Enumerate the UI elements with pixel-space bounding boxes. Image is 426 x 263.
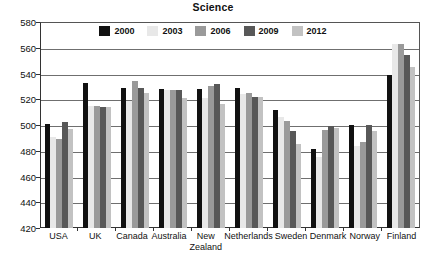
- gridline: [41, 203, 419, 204]
- legend-label: 2012: [307, 26, 327, 36]
- legend-swatch-icon: [195, 26, 206, 36]
- y-axis-tick-label: 520: [0, 94, 36, 105]
- legend-item[interactable]: 2006: [195, 26, 230, 36]
- y-axis-tick-mark: [36, 22, 40, 23]
- x-axis-label: Canada: [114, 231, 151, 252]
- y-axis-tick-label: 560: [0, 42, 36, 53]
- x-axis-label: Norway: [346, 231, 383, 252]
- gridline: [41, 152, 419, 153]
- x-axis-labels: USAUKCanadaAustraliaNewZealandNetherland…: [40, 231, 420, 252]
- x-axis-label-line: Zealand: [187, 242, 224, 253]
- x-axis-label-line: Sweden: [273, 231, 310, 242]
- x-axis-label-line: New: [187, 231, 224, 242]
- legend-label: 2000: [114, 26, 134, 36]
- x-axis-label: Denmark: [310, 231, 347, 252]
- legend-label: 2009: [259, 26, 279, 36]
- legend-swatch-icon: [292, 26, 303, 36]
- x-axis-label: Sweden: [273, 231, 310, 252]
- legend-item[interactable]: 2009: [244, 26, 279, 36]
- y-axis-tick-mark: [36, 99, 40, 100]
- x-axis-label: Netherlands: [224, 231, 273, 252]
- x-axis-label-line: Norway: [346, 231, 383, 242]
- gridline: [41, 126, 419, 127]
- legend-item[interactable]: 2012: [292, 26, 327, 36]
- y-axis-tick-label: 480: [0, 145, 36, 156]
- legend-swatch-icon: [99, 26, 110, 36]
- x-axis-label-line: Canada: [114, 231, 151, 242]
- gridline: [41, 75, 419, 76]
- y-axis-tick-label: 440: [0, 197, 36, 208]
- x-axis-label: NewZealand: [187, 231, 224, 252]
- y-axis-tick-mark: [36, 48, 40, 49]
- y-axis-tick-mark: [36, 202, 40, 203]
- legend-swatch-icon: [244, 26, 255, 36]
- gridline: [41, 178, 419, 179]
- x-axis-label: Finland: [383, 231, 420, 252]
- x-axis-label-line: Denmark: [310, 231, 347, 242]
- legend-item[interactable]: 2000: [99, 26, 134, 36]
- y-axis-tick-label: 500: [0, 120, 36, 131]
- x-axis-label-line: Australia: [150, 231, 187, 242]
- x-axis-label-line: USA: [40, 231, 77, 242]
- y-axis-tick-mark: [36, 74, 40, 75]
- x-axis-label-line: Finland: [383, 231, 420, 242]
- y-axis-tick-mark: [36, 228, 40, 229]
- legend-item[interactable]: 2003: [147, 26, 182, 36]
- y-axis-tick-mark: [36, 125, 40, 126]
- legend-label: 2006: [210, 26, 230, 36]
- x-axis-label: USA: [40, 231, 77, 252]
- x-axis-label-line: UK: [77, 231, 114, 242]
- x-axis-label-line: Netherlands: [224, 231, 273, 242]
- legend-swatch-icon: [147, 26, 158, 36]
- plot-area: [40, 22, 420, 228]
- y-axis-tick-label: 460: [0, 171, 36, 182]
- science-bar-chart: Science 420440460480500520540560580 USAU…: [0, 0, 426, 263]
- chart-title: Science: [0, 1, 426, 13]
- x-axis-label: UK: [77, 231, 114, 252]
- y-axis-tick-label: 540: [0, 68, 36, 79]
- gridline: [41, 100, 419, 101]
- legend-label: 2003: [162, 26, 182, 36]
- chart-legend: 20002003200620092012: [0, 26, 426, 36]
- y-axis-tick-label: 420: [0, 223, 36, 234]
- gridline: [41, 49, 419, 50]
- y-axis-tick-mark: [36, 177, 40, 178]
- x-axis-label: Australia: [150, 231, 187, 252]
- y-axis-tick-mark: [36, 151, 40, 152]
